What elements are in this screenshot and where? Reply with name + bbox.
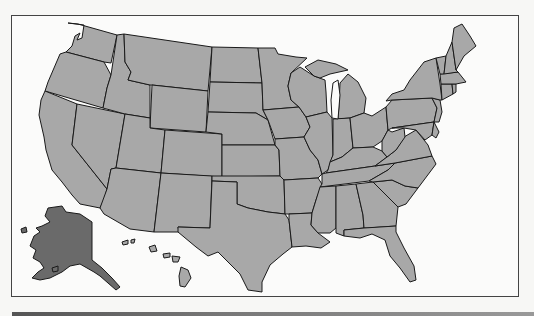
hawaii-island[interactable] [122, 240, 128, 245]
hawaii-island-big[interactable] [179, 267, 191, 287]
state-connecticut[interactable] [441, 84, 453, 100]
us-map [0, 0, 534, 316]
hawaii-island[interactable] [149, 245, 157, 252]
bottom-divider [12, 312, 534, 316]
state-montana[interactable] [124, 34, 212, 91]
state-new-mexico[interactable] [154, 173, 212, 232]
state-florida[interactable] [344, 226, 416, 282]
state-wyoming[interactable] [150, 85, 208, 132]
state-colorado[interactable] [161, 130, 222, 177]
state-alaska[interactable] [30, 206, 120, 290]
alaska-island [21, 227, 27, 233]
hawaii-island[interactable] [163, 253, 170, 258]
state-maine[interactable] [452, 24, 476, 70]
state-rhode-island[interactable] [452, 84, 456, 94]
state-arizona[interactable] [100, 168, 161, 232]
hawaii-island[interactable] [172, 256, 180, 262]
state-kansas[interactable] [222, 145, 280, 177]
state-new-york[interactable] [386, 58, 442, 101]
hawaii-island[interactable] [131, 239, 135, 243]
state-north-dakota[interactable] [210, 47, 262, 83]
lake-michigan [331, 80, 340, 119]
